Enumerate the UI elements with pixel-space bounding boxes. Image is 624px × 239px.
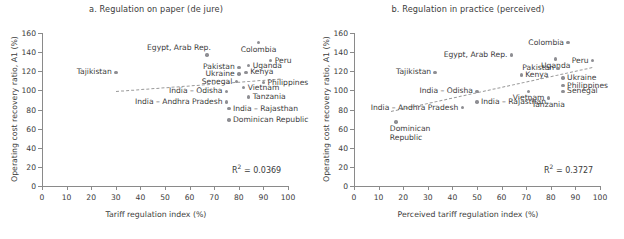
y-tick-label: 0	[326, 182, 348, 191]
x-tick-mark	[67, 186, 68, 190]
panel-b-r2-annotation: R2 = 0.3727	[544, 163, 593, 175]
x-tick-mark	[288, 186, 289, 190]
x-tick-label: 0	[342, 193, 366, 202]
data-point[interactable]	[227, 118, 230, 121]
x-tick-mark	[477, 186, 478, 190]
x-tick-mark	[600, 186, 601, 190]
x-tick-label: 100	[276, 193, 300, 202]
y-tick-label: 140	[326, 48, 348, 57]
figure-root: a. Regulation on paper (de jure) Operati…	[0, 0, 624, 239]
data-point[interactable]	[227, 107, 230, 110]
data-point[interactable]	[205, 53, 208, 56]
x-tick-mark	[526, 186, 527, 190]
y-tick-label: 80	[326, 106, 348, 115]
point-label: India – Rajasthan	[481, 98, 546, 107]
y-tick-label: 60	[326, 125, 348, 134]
y-tick-label: 160	[326, 29, 348, 38]
x-tick-label: 40	[440, 193, 464, 202]
data-point[interactable]	[475, 90, 478, 93]
y-tick-label: 40	[326, 144, 348, 153]
x-tick-mark	[428, 186, 429, 190]
point-label: Egypt, Arab Rep.	[444, 51, 508, 60]
x-tick-label: 0	[30, 193, 54, 202]
y-tick-label: 0	[14, 182, 36, 191]
x-tick-mark	[379, 186, 380, 190]
y-tick-label: 120	[326, 67, 348, 76]
x-tick-mark	[502, 186, 503, 190]
data-point[interactable]	[520, 73, 523, 76]
x-tick-label: 70	[202, 193, 226, 202]
x-tick-mark	[116, 186, 117, 190]
data-point[interactable]	[566, 41, 569, 44]
x-tick-mark	[165, 186, 166, 190]
data-point[interactable]	[225, 100, 228, 103]
point-label: India – Rajasthan	[233, 104, 298, 113]
y-tick-label: 100	[326, 86, 348, 95]
point-label: Senegal	[567, 87, 598, 96]
point-label: India – Andhra Pradesh	[135, 98, 223, 107]
data-point[interactable]	[510, 53, 513, 56]
point-label: Colombia	[241, 45, 277, 54]
y-tick-label: 120	[14, 67, 36, 76]
point-label: Egypt, Arab Rep.	[147, 44, 211, 53]
point-label: Kenya	[250, 68, 273, 77]
data-point[interactable]	[475, 100, 478, 103]
x-tick-label: 30	[104, 193, 128, 202]
x-tick-label: 80	[539, 193, 563, 202]
x-tick-mark	[214, 186, 215, 190]
point-label: Dominican Republic	[390, 124, 436, 143]
data-point[interactable]	[561, 90, 564, 93]
panel-a-r2-annotation: R2 = 0.0369	[232, 163, 281, 175]
y-tick-label: 60	[14, 125, 36, 134]
y-tick-label: 80	[14, 106, 36, 115]
y-tick-label: 20	[14, 163, 36, 172]
chart-panel-b: b. Regulation in practice (perceived) Op…	[312, 0, 624, 239]
panel-a-title: a. Regulation on paper (de jure)	[0, 4, 312, 14]
x-tick-mark	[140, 186, 141, 190]
point-label: Tajikistan	[396, 68, 431, 77]
point-label: Peru	[572, 56, 589, 65]
point-label: Kenya	[525, 71, 548, 80]
x-tick-label: 10	[367, 193, 391, 202]
y-tick-label: 100	[14, 86, 36, 95]
x-tick-label: 30	[416, 193, 440, 202]
x-tick-label: 60	[178, 193, 202, 202]
x-tick-mark	[190, 186, 191, 190]
point-label: India – Odisha	[419, 87, 473, 96]
x-tick-label: 10	[55, 193, 79, 202]
point-label: Tajikistan	[77, 68, 112, 77]
x-tick-label: 90	[251, 193, 275, 202]
point-label: Tanzania	[253, 93, 286, 102]
y-tick-label: 160	[14, 29, 36, 38]
x-tick-label: 20	[391, 193, 415, 202]
data-point[interactable]	[244, 71, 247, 74]
x-tick-label: 50	[153, 193, 177, 202]
x-tick-mark	[354, 186, 355, 190]
x-tick-mark	[239, 186, 240, 190]
data-point[interactable]	[561, 76, 564, 79]
x-tick-mark	[403, 186, 404, 190]
point-label: India – Andhra Pradesh	[371, 103, 459, 112]
data-point[interactable]	[556, 67, 559, 70]
chart-panel-a: a. Regulation on paper (de jure) Operati…	[0, 0, 312, 239]
x-tick-mark	[575, 186, 576, 190]
x-tick-label: 80	[227, 193, 251, 202]
x-tick-label: 50	[465, 193, 489, 202]
panel-a-x-axis-title: Tariff regulation index (%)	[0, 210, 312, 219]
x-tick-label: 70	[514, 193, 538, 202]
data-point[interactable]	[237, 66, 240, 69]
data-point[interactable]	[114, 71, 117, 74]
x-tick-label: 20	[79, 193, 103, 202]
x-tick-label: 60	[490, 193, 514, 202]
y-tick-label: 20	[326, 163, 348, 172]
x-tick-mark	[42, 186, 43, 190]
point-label: Vietnam	[248, 83, 280, 92]
point-label: India – Odisha	[169, 87, 223, 96]
data-point[interactable]	[433, 71, 436, 74]
y-tick-label: 140	[14, 48, 36, 57]
point-label: Colombia	[528, 38, 564, 47]
x-tick-label: 100	[588, 193, 612, 202]
r2-value: = 0.3727	[553, 166, 593, 175]
data-point[interactable]	[237, 72, 240, 75]
x-tick-mark	[452, 186, 453, 190]
